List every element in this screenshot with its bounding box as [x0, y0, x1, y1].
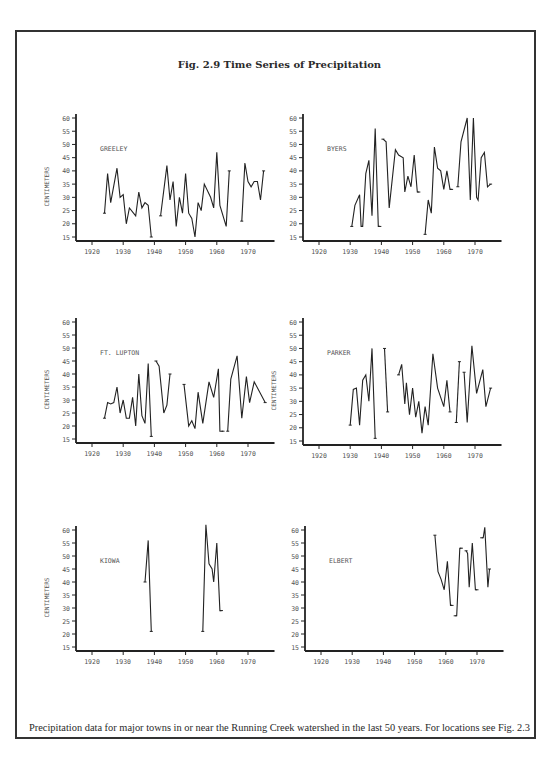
svg-text:1940: 1940 [147, 658, 163, 666]
svg-text:35: 35 [289, 181, 297, 189]
svg-text:50: 50 [289, 345, 297, 353]
svg-text:1930: 1930 [342, 248, 358, 256]
svg-text:35: 35 [291, 592, 299, 600]
svg-text:30: 30 [291, 605, 299, 613]
svg-text:1960: 1960 [209, 658, 225, 666]
svg-text:60: 60 [289, 319, 297, 327]
svg-text:20: 20 [62, 423, 70, 431]
svg-text:50: 50 [291, 553, 299, 561]
svg-text:ELBERT: ELBERT [329, 557, 353, 565]
svg-text:BYERS: BYERS [327, 145, 347, 153]
svg-text:55: 55 [289, 332, 297, 340]
svg-text:1950: 1950 [407, 658, 423, 666]
svg-text:55: 55 [62, 540, 70, 548]
svg-text:CENTIMETERS: CENTIMETERS [270, 370, 277, 410]
svg-text:CENTIMETERS: CENTIMETERS [43, 369, 50, 409]
svg-text:20: 20 [62, 220, 70, 228]
svg-text:30: 30 [62, 605, 70, 613]
svg-text:CENTIMETERS: CENTIMETERS [43, 577, 50, 617]
svg-text:1930: 1930 [115, 248, 131, 256]
svg-text:45: 45 [289, 154, 297, 162]
svg-text:60: 60 [62, 319, 70, 327]
svg-text:15: 15 [291, 644, 299, 652]
svg-text:40: 40 [289, 167, 297, 175]
chart-parker: 1520253035404550556019201930194019501960… [268, 314, 513, 464]
svg-text:55: 55 [62, 332, 70, 340]
svg-text:15: 15 [289, 438, 297, 446]
svg-text:60: 60 [62, 115, 70, 123]
svg-text:1960: 1960 [209, 248, 225, 256]
svg-text:1970: 1970 [240, 658, 256, 666]
svg-text:GREELEY: GREELEY [100, 145, 127, 153]
svg-text:15: 15 [62, 436, 70, 444]
svg-text:30: 30 [289, 398, 297, 406]
svg-text:40: 40 [62, 579, 70, 587]
svg-text:25: 25 [62, 207, 70, 215]
svg-text:1920: 1920 [84, 248, 100, 256]
svg-text:60: 60 [291, 527, 299, 535]
svg-text:1930: 1930 [115, 658, 131, 666]
figure-caption: Precipitation data for major towns in or… [0, 722, 559, 733]
svg-text:20: 20 [289, 220, 297, 228]
svg-text:25: 25 [62, 618, 70, 626]
svg-text:50: 50 [62, 345, 70, 353]
svg-text:40: 40 [62, 167, 70, 175]
svg-text:50: 50 [62, 553, 70, 561]
figure-title: Fig. 2.9 Time Series of Precipitation [0, 59, 559, 70]
svg-text:45: 45 [62, 154, 70, 162]
svg-text:1940: 1940 [376, 658, 392, 666]
chart-greeley: 1520253035404550556019201930194019501960… [40, 110, 280, 260]
svg-text:1920: 1920 [311, 248, 327, 256]
svg-text:50: 50 [289, 141, 297, 149]
svg-text:1970: 1970 [469, 658, 485, 666]
svg-text:1940: 1940 [147, 450, 163, 458]
svg-text:45: 45 [62, 566, 70, 574]
svg-text:KIOWA: KIOWA [100, 557, 120, 565]
svg-text:1950: 1950 [405, 248, 421, 256]
svg-text:PARKER: PARKER [327, 349, 351, 357]
svg-text:40: 40 [62, 371, 70, 379]
svg-text:50: 50 [62, 141, 70, 149]
svg-text:1950: 1950 [405, 452, 421, 460]
svg-text:20: 20 [291, 631, 299, 639]
svg-text:55: 55 [291, 540, 299, 548]
svg-text:1930: 1930 [115, 450, 131, 458]
svg-text:1970: 1970 [240, 450, 256, 458]
svg-text:45: 45 [289, 358, 297, 366]
svg-text:1970: 1970 [467, 452, 483, 460]
svg-text:35: 35 [62, 384, 70, 392]
chart-kiowa: 1520253035404550556019201930194019501960… [40, 522, 280, 672]
svg-text:1960: 1960 [438, 658, 454, 666]
svg-text:1940: 1940 [147, 248, 163, 256]
svg-text:1920: 1920 [311, 452, 327, 460]
svg-text:25: 25 [62, 410, 70, 418]
svg-text:1930: 1930 [342, 452, 358, 460]
svg-text:25: 25 [291, 618, 299, 626]
svg-text:60: 60 [289, 115, 297, 123]
svg-text:1940: 1940 [374, 248, 390, 256]
svg-text:1950: 1950 [178, 658, 194, 666]
svg-text:40: 40 [291, 579, 299, 587]
svg-text:45: 45 [62, 358, 70, 366]
svg-text:15: 15 [62, 234, 70, 242]
svg-text:35: 35 [62, 181, 70, 189]
svg-text:30: 30 [62, 397, 70, 405]
chart-byers: 1520253035404550556019201930194019501960… [268, 110, 513, 260]
svg-text:1960: 1960 [436, 452, 452, 460]
svg-text:40: 40 [289, 371, 297, 379]
svg-text:1960: 1960 [209, 450, 225, 458]
svg-text:30: 30 [62, 194, 70, 202]
svg-text:35: 35 [289, 385, 297, 393]
svg-text:1940: 1940 [374, 452, 390, 460]
svg-text:CENTIMETERS: CENTIMETERS [43, 166, 50, 206]
chart-elbert: 1520253035404550556019201930194019501960… [268, 522, 513, 672]
svg-text:45: 45 [291, 566, 299, 574]
chart-ft-lupton: 1520253035404550556019201930194019501960… [40, 314, 280, 464]
svg-text:1930: 1930 [344, 658, 360, 666]
svg-text:25: 25 [289, 411, 297, 419]
svg-text:55: 55 [289, 128, 297, 136]
svg-text:1950: 1950 [178, 248, 194, 256]
svg-text:1950: 1950 [178, 450, 194, 458]
svg-text:1920: 1920 [313, 658, 329, 666]
svg-text:15: 15 [289, 234, 297, 242]
